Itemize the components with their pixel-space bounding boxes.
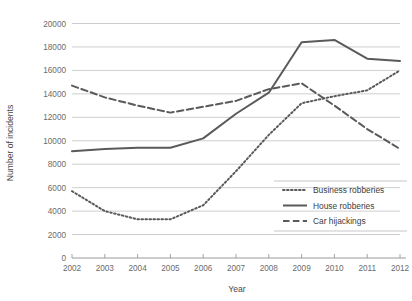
- y-tick-label: 4000: [48, 207, 67, 216]
- y-tick-label: 6000: [48, 184, 67, 193]
- x-tick-label: 2007: [227, 264, 246, 273]
- x-tick-label: 2006: [194, 264, 213, 273]
- y-axis-tick-labels: 0200040006000800010000120001400016000180…: [43, 20, 66, 264]
- x-axis-title: Year: [228, 284, 246, 294]
- y-tick-label: 18000: [43, 43, 66, 52]
- series-line-business-robberies: [72, 70, 400, 219]
- x-tick-label: 2004: [128, 264, 147, 273]
- x-tick-label: 2012: [391, 264, 410, 273]
- x-tick-label: 2003: [96, 264, 115, 273]
- x-tick-label: 2005: [161, 264, 180, 273]
- x-tick-label: 2011: [358, 264, 376, 273]
- y-tick-label: 12000: [43, 113, 66, 122]
- legend-label: Business robberies: [313, 185, 384, 195]
- x-tick-label: 2002: [63, 264, 82, 273]
- y-tick-label: 20000: [43, 20, 66, 29]
- y-tick-label: 10000: [43, 137, 66, 146]
- y-tick-label: 0: [61, 254, 66, 263]
- legend-label: House robberies: [313, 201, 374, 211]
- y-tick-label: 16000: [43, 66, 66, 75]
- x-axis-tickmarks: [72, 254, 400, 258]
- legend-label: Car hijackings: [313, 216, 366, 226]
- y-tick-label: 2000: [48, 231, 67, 240]
- x-tick-label: 2008: [260, 264, 279, 273]
- y-axis-title: Number of incidents: [5, 105, 15, 181]
- line-chart: 0200040006000800010000120001400016000180…: [0, 0, 412, 301]
- x-axis-tick-labels: 2002200320042005200620072008200920102011…: [63, 264, 410, 273]
- series-line-house-robberies: [72, 40, 400, 151]
- y-tick-label: 8000: [48, 160, 67, 169]
- x-tick-label: 2010: [325, 264, 344, 273]
- x-tick-label: 2009: [292, 264, 311, 273]
- chart-legend: Business robberiesHouse robberiesCar hij…: [274, 181, 407, 231]
- chart-canvas: 0200040006000800010000120001400016000180…: [0, 0, 412, 301]
- y-tick-label: 14000: [43, 90, 66, 99]
